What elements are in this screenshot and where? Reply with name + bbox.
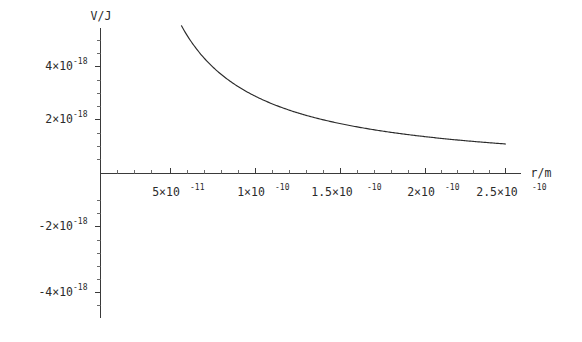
x-tick-label-exponent: -10 (367, 183, 382, 192)
y-tick-label-exponent: -18 (73, 217, 88, 226)
y-tick-label-mantissa: -4×10 (38, 285, 73, 299)
x-tick-marks (171, 168, 506, 174)
y-tick-label-exponent: -18 (73, 283, 88, 292)
y-tick-label-exponent: -18 (73, 57, 88, 66)
x-tick-label-mantissa: 1×10 (237, 185, 265, 199)
x-tick-label-exponent: -10 (445, 183, 460, 192)
x-tick-label-3: 2×10 -10 (407, 183, 459, 199)
x-tick-label-mantissa: 2×10 (407, 185, 435, 199)
y-tick-label-mantissa: -2×10 (38, 219, 73, 233)
x-tick-label-exponent: -10 (275, 183, 290, 192)
y-tick-label-0: 4×10 -18 (45, 57, 87, 73)
x-axis-title: r/m (531, 166, 552, 180)
x-tick-label-mantissa: 1.5×10 (311, 185, 353, 199)
x-tick-label-mantissa: 5×10 (152, 185, 180, 199)
plot-figure: 4×10 -18 2×10 -18 -2×10 -18 -4×10 -18 5×… (0, 0, 582, 342)
x-tick-label-exponent: -11 (190, 183, 205, 192)
plot-canvas: 4×10 -18 2×10 -18 -2×10 -18 -4×10 -18 5×… (0, 0, 582, 342)
y-tick-label-2: -2×10 -18 (38, 217, 87, 233)
y-tick-label-exponent: -18 (73, 110, 88, 119)
x-tick-label-exponent: -10 (532, 183, 547, 192)
y-axis-title: V/J (91, 9, 112, 23)
y-tick-label-1: 2×10 -18 (45, 110, 87, 126)
x-tick-label-0: 5×10 -11 (152, 183, 204, 199)
x-tick-label-1: 1×10 -10 (237, 183, 289, 199)
y-tick-label-mantissa: 4×10 (45, 59, 73, 73)
x-tick-label-4: 2.5×10 -10 (476, 183, 546, 199)
y-tick-marks (95, 67, 101, 293)
x-tick-label-2: 1.5×10 -10 (311, 183, 381, 199)
x-tick-label-mantissa: 2.5×10 (476, 185, 518, 199)
potential-curve (182, 26, 506, 144)
y-tick-label-3: -4×10 -18 (38, 283, 87, 299)
y-tick-label-mantissa: 2×10 (45, 112, 73, 126)
